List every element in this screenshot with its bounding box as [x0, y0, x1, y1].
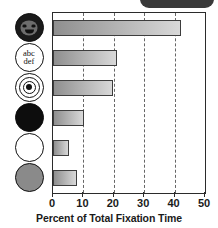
- tick-label-30: 30: [128, 197, 158, 209]
- face-mouth-icon: [25, 29, 34, 33]
- gray-circle-icon: [15, 163, 44, 192]
- tick-label-20: 20: [98, 197, 128, 209]
- partial-dark-rounded-tab: [140, 0, 214, 8]
- x-axis-tick-labels: 01020304050: [0, 197, 218, 213]
- category-icon-cell-face: [8, 12, 50, 42]
- bar-face: [53, 20, 181, 36]
- fixation-time-bar-chart-figure: abc def 01020304050 Percent of To: [0, 0, 218, 228]
- text-icon-line2: def: [23, 57, 35, 65]
- bar-gray-disc: [53, 170, 77, 186]
- tick-label-0: 0: [37, 197, 67, 209]
- gridline-30: [144, 13, 145, 193]
- category-icon-cell-white: [8, 132, 50, 162]
- bar-white-disc: [53, 140, 69, 156]
- plot-area: [52, 12, 206, 194]
- face-inner-shape: [21, 20, 38, 35]
- x-axis-title: Percent of Total Fixation Time: [0, 212, 218, 224]
- face-icon: [15, 13, 44, 42]
- bullseye-icon: [15, 73, 44, 102]
- bullseye-center-dot: [26, 84, 32, 90]
- stimulus-icon-column: abc def: [8, 12, 50, 192]
- white-circle-icon: [15, 133, 44, 162]
- black-circle-icon: [15, 103, 44, 132]
- tick-label-40: 40: [159, 197, 189, 209]
- face-eye-right-icon: [32, 24, 36, 27]
- tick-label-10: 10: [67, 197, 97, 209]
- tick-label-50: 50: [189, 197, 218, 209]
- category-icon-cell-gray: [8, 162, 50, 192]
- bar-black-disc: [53, 110, 84, 126]
- gridline-40: [175, 13, 176, 193]
- gridline-10: [83, 13, 84, 193]
- bar-abc-def-text: [53, 50, 117, 66]
- category-icon-cell-bullseye: [8, 72, 50, 102]
- gridline-20: [114, 13, 115, 193]
- category-icon-cell-black: [8, 102, 50, 132]
- face-eye-left-icon: [23, 24, 27, 27]
- text-abcdef-icon: abc def: [15, 43, 44, 72]
- bar-bullseye: [53, 80, 113, 96]
- category-icon-cell-text: abc def: [8, 42, 50, 72]
